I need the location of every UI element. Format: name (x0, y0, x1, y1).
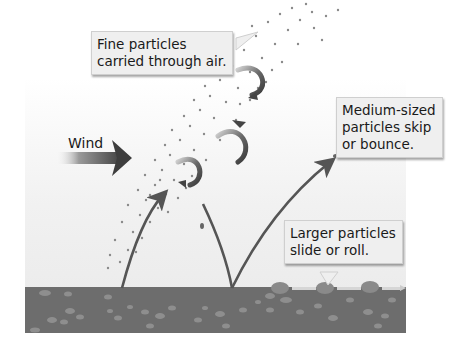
callout-large-line-1: Larger particles (290, 225, 396, 242)
diagram-canvas: Fine particles carried through air. Medi… (0, 0, 454, 347)
callout-medium-line-3: or bounce. (342, 136, 436, 153)
callout-medium-line-2: particles skip (342, 119, 436, 136)
callout-pointers (0, 0, 454, 347)
callout-large-line-2: slide or roll. (290, 242, 396, 259)
callout-larger-particles: Larger particles slide or roll. (284, 220, 403, 264)
callout-medium-particles: Medium-sized particles skip or bounce. (336, 97, 443, 158)
wind-label: Wind (68, 135, 103, 151)
callout-medium-line-1: Medium-sized (342, 102, 436, 119)
